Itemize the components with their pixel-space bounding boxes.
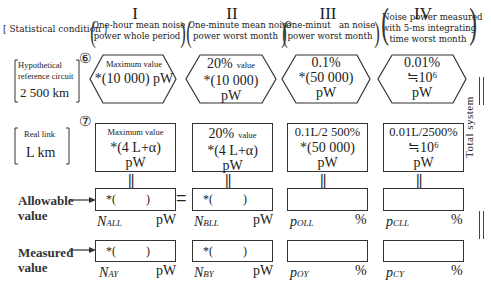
measured-field-2[interactable]: *( ) [192, 240, 273, 262]
allowable-symbol-4: pCLL [386, 212, 409, 230]
allowable-unit-3: % [355, 212, 367, 228]
arrow-right-icon [69, 196, 96, 204]
hexagon-cell-4: 0.01% ≒10⁶ pW [382, 55, 462, 100]
allowable-label: Allowable value [18, 193, 74, 223]
measured-unit-2: pW [253, 263, 273, 279]
equals-connector-2: || [225, 172, 230, 188]
allowable-field-2[interactable]: *( ) [192, 188, 273, 211]
measured-symbol-4: pCY [386, 263, 404, 281]
real-link-label: Real link L km [14, 126, 70, 166]
allowable-unit-4: % [451, 212, 463, 228]
marker-7: ⑦ [79, 113, 92, 129]
measured-field-4[interactable] [383, 240, 464, 262]
allowable-unit-1: pW [156, 212, 176, 228]
real-link-cell-1: Maximum value *(4 L+α) pW [95, 123, 176, 172]
double-bar-top-a [479, 77, 480, 105]
arrow-right-icon [69, 246, 96, 254]
allowable-symbol-3: pOLL [290, 212, 314, 230]
real-link-cell-3: 0.1L/2 500% *(50 000) pW [287, 123, 368, 172]
measured-symbol-1: NAY [99, 263, 118, 281]
hexagon-cell-2: 20% value *(10 000) pW [191, 55, 271, 103]
measured-field-1[interactable]: *( ) [95, 240, 176, 262]
measured-unit-3: % [355, 263, 367, 279]
measured-unit-1: pW [156, 263, 176, 279]
measured-label: Measured value [18, 245, 73, 275]
real-link-distance: L km [26, 145, 55, 161]
equals-connector-1: || [128, 172, 133, 188]
equals-connector-4: || [416, 172, 421, 188]
allowable-field-3[interactable] [287, 188, 368, 211]
real-link-text: Real link [24, 129, 55, 139]
real-link-cell-2: 20% value *(4 L+α) pW [192, 123, 273, 172]
allowable-symbol-1: NALL [97, 212, 122, 230]
real-link-cell-4: 0.01L/2500% ≒10⁶ pW [383, 123, 464, 172]
total-system-label: Total system [463, 118, 475, 158]
equals-sign: = [176, 188, 187, 209]
hexagon-cell-1: Maximum value *(10 000) pW [94, 59, 174, 87]
measured-field-3[interactable] [287, 240, 368, 262]
hexagon-cell-3: 0.1% *(50 000) pW [286, 55, 366, 100]
measured-symbol-2: NBY [194, 263, 214, 281]
double-bar-bottom-b [483, 211, 484, 239]
double-bar-bottom-a [479, 211, 480, 239]
allowable-field-1[interactable]: *( ) [95, 188, 176, 211]
equals-connector-3: || [320, 172, 325, 188]
allowable-field-4[interactable] [383, 188, 464, 211]
measured-unit-4: % [451, 263, 463, 279]
double-bar-top-b [483, 77, 484, 105]
measured-symbol-3: pOY [290, 263, 309, 281]
allowable-symbol-2: NBLL [194, 212, 219, 230]
allowable-unit-2: pW [253, 212, 273, 228]
